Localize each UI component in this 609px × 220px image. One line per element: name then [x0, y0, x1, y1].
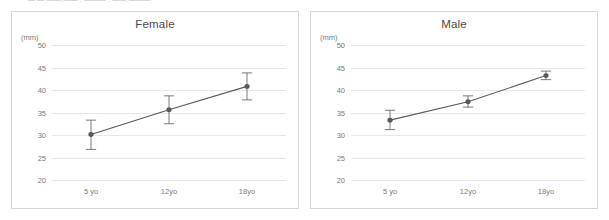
- y-axis-tick-female-45: 45: [38, 63, 46, 72]
- chart-title-female: Female: [12, 18, 298, 30]
- y-axis-tick-male-35: 35: [337, 108, 345, 117]
- chart-title-male: Male: [311, 18, 597, 30]
- data-point-female-0: [88, 132, 93, 137]
- y-axis-unit-label-male: (mm): [320, 33, 338, 42]
- data-point-male-1: [465, 99, 470, 104]
- y-axis-tick-female-30: 30: [38, 131, 46, 140]
- data-point-male-2: [543, 73, 548, 78]
- x-axis-tick-female-2: 18yo: [239, 187, 255, 196]
- y-axis-tick-female-50: 50: [38, 41, 46, 50]
- plot-area-male: 504540353025205 yo12yo18yo: [351, 45, 585, 180]
- x-axis-tick-female-0: 5 yo: [84, 187, 98, 196]
- y-axis-tick-male-30: 30: [337, 131, 345, 140]
- x-axis-tick-female-1: 12yo: [161, 187, 177, 196]
- x-axis-tick-male-2: 18yo: [538, 187, 554, 196]
- data-point-female-1: [166, 107, 171, 112]
- figure-two-panel-line-charts: Female (mm) 504540353025205 yo12yo18yo M…: [11, 11, 598, 209]
- series-female: [52, 45, 286, 180]
- y-axis-unit-label-female: (mm): [21, 33, 39, 42]
- y-axis-tick-female-40: 40: [38, 86, 46, 95]
- y-axis-tick-male-40: 40: [337, 86, 345, 95]
- y-axis-tick-male-45: 45: [337, 63, 345, 72]
- y-axis-tick-female-35: 35: [38, 108, 46, 117]
- plot-area-female: 504540353025205 yo12yo18yo: [52, 45, 286, 180]
- x-axis-tick-male-0: 5 yo: [383, 187, 397, 196]
- data-point-female-2: [244, 84, 249, 89]
- chart-panel-male: Male (mm) 504540353025205 yo12yo18yo: [310, 11, 598, 209]
- cropped-header-text-strip: — — ——.—— . ——— . ——.———: [0, 0, 609, 10]
- y-axis-tick-male-50: 50: [337, 41, 345, 50]
- gridline-20: [52, 180, 286, 181]
- gridline-20: [351, 180, 585, 181]
- chart-panel-female: Female (mm) 504540353025205 yo12yo18yo: [11, 11, 299, 209]
- y-axis-tick-female-20: 20: [38, 176, 46, 185]
- y-axis-tick-male-25: 25: [337, 153, 345, 162]
- y-axis-tick-female-25: 25: [38, 153, 46, 162]
- header-text-fragment: — — ——.—— . ——— . ——.———: [28, 0, 150, 3]
- y-axis-tick-male-20: 20: [337, 176, 345, 185]
- x-axis-tick-male-1: 12yo: [460, 187, 476, 196]
- series-male: [351, 45, 585, 180]
- data-point-male-0: [387, 118, 392, 123]
